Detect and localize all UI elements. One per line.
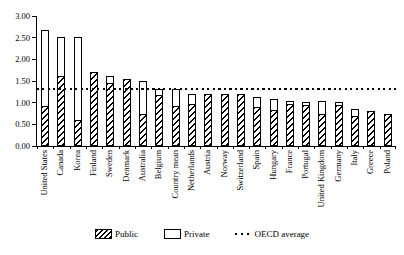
x-tick-label: Switzerland	[235, 150, 245, 226]
y-tick-label: 0.00	[15, 141, 30, 151]
legend: Public Private OECD average	[0, 229, 404, 239]
x-tick-label: Netherlands	[186, 150, 196, 226]
x-axis-tick	[102, 146, 103, 149]
x-axis-tick	[135, 146, 136, 149]
private-bar-segment	[318, 101, 326, 115]
bar-finland	[90, 72, 98, 147]
private-bar-segment	[57, 37, 65, 77]
bar-group	[135, 16, 151, 146]
x-tick-label: Finland	[88, 150, 98, 226]
x-axis-tick	[265, 146, 266, 149]
x-axis-tick	[53, 146, 54, 149]
bar-group	[314, 16, 330, 146]
x-axis-tick	[331, 146, 332, 149]
public-bar-segment	[253, 107, 261, 146]
x-tick-label: Austria	[202, 150, 212, 226]
bar-united-states	[41, 30, 49, 146]
x-axis-tick	[168, 146, 169, 149]
x-label-slot: United States	[36, 150, 52, 228]
x-label-slot: Spain	[248, 150, 264, 228]
x-tick-label: Canada	[55, 150, 65, 226]
x-tick-label: Poland	[382, 150, 392, 226]
y-axis-tick	[32, 37, 36, 38]
y-axis-tick	[32, 146, 36, 147]
y-tick-label: 2.00	[15, 54, 30, 64]
y-tick-label: 0.50	[15, 119, 30, 129]
bar-group	[37, 16, 53, 146]
x-axis-tick	[314, 146, 315, 149]
x-label-slot: Australia	[134, 150, 150, 228]
legend-label-oecd-average: OECD average	[254, 229, 309, 239]
x-axis-tick	[200, 146, 201, 149]
bar-france	[286, 101, 294, 146]
public-bar-segment	[318, 114, 326, 146]
bar-norway	[221, 94, 229, 146]
bar-group	[119, 16, 135, 146]
bar-group	[363, 16, 379, 146]
bar-spain	[253, 97, 261, 146]
x-axis-tick	[298, 146, 299, 149]
chart-canvas: 0.000.501.001.502.002.503.00 United Stat…	[0, 0, 404, 255]
public-bar-segment	[367, 111, 375, 147]
x-tick-label: France	[284, 150, 294, 226]
x-tick-label: Portugal	[300, 150, 310, 226]
x-label-slot: Switzerland	[232, 150, 248, 228]
x-axis-tick	[347, 146, 348, 149]
public-bar-segment	[384, 114, 392, 146]
public-bar-segment	[351, 116, 359, 146]
x-label-slot: Country mean	[167, 150, 183, 228]
bar-group	[331, 16, 347, 146]
legend-item-oecd-average: OECD average	[235, 229, 309, 239]
x-tick-label: Country mean	[170, 150, 180, 226]
bar-group	[102, 16, 118, 146]
x-label-slot: Belgium	[150, 150, 166, 228]
x-axis-tick	[217, 146, 218, 149]
oecd-average-dotted-line-icon	[235, 233, 251, 235]
bar-group	[53, 16, 69, 146]
bar-group	[184, 16, 200, 146]
public-bar-segment	[302, 105, 310, 146]
x-tick-label: Italy	[349, 150, 359, 226]
bar-group	[70, 16, 86, 146]
bar-switzerland	[237, 94, 245, 146]
bar-group	[86, 16, 102, 146]
bar-group	[265, 16, 281, 146]
public-bar-segment	[237, 94, 245, 146]
bar-australia	[139, 81, 147, 146]
public-hatch-swatch-icon	[95, 229, 112, 239]
x-label-slot: Norway	[215, 150, 231, 228]
x-tick-label: Spain	[251, 150, 261, 226]
bar-netherlands	[188, 94, 196, 146]
x-tick-label: Sweden	[104, 150, 114, 226]
bar-austria	[204, 94, 212, 146]
y-tick-label: 3.00	[15, 11, 30, 21]
bar-group	[380, 16, 396, 146]
legend-label-public: Public	[115, 229, 138, 239]
x-label-slot: Poland	[379, 150, 395, 228]
x-tick-label: Norway	[219, 150, 229, 226]
bar-group	[233, 16, 249, 146]
legend-label-private: Private	[184, 229, 210, 239]
x-tick-label: Greece	[365, 150, 375, 226]
bar-group	[298, 16, 314, 146]
y-tick-label: 2.50	[15, 33, 30, 43]
public-bar-segment	[221, 94, 229, 146]
x-axis-tick	[119, 146, 120, 149]
bar-korea	[74, 37, 82, 146]
public-bar-segment	[106, 83, 114, 146]
bar-group	[151, 16, 167, 146]
x-axis-tick	[395, 146, 396, 149]
x-label-slot: Austria	[199, 150, 215, 228]
public-bar-segment	[74, 120, 82, 146]
public-bar-segment	[204, 94, 212, 146]
x-label-slot: Finland	[85, 150, 101, 228]
x-label-slot: Denmark	[118, 150, 134, 228]
bar-germany	[335, 102, 343, 146]
bar-group	[282, 16, 298, 146]
public-bar-segment	[172, 106, 180, 146]
x-axis-tick	[151, 146, 152, 149]
y-axis-labels: 0.000.501.001.502.002.503.00	[0, 16, 30, 146]
x-axis-tick	[363, 146, 364, 149]
private-bar-segment	[139, 81, 147, 115]
x-label-slot: United Kingdom	[313, 150, 329, 228]
